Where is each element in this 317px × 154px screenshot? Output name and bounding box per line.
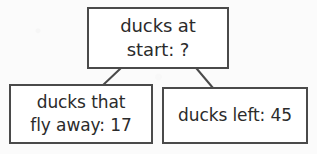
connector-total-to-left — [103, 69, 120, 85]
connector-total-to-right — [197, 69, 213, 88]
node-part-right-line-1: ducks left: 45 — [178, 104, 292, 127]
node-part-left-line-2: fly away: 17 — [30, 114, 131, 137]
node-total-line-2: start: ? — [127, 38, 189, 62]
node-part-ducks-that-fly-away: ducks that fly away: 17 — [9, 84, 153, 144]
node-total-line-1: ducks at — [120, 14, 196, 38]
node-part-left-line-1: ducks that — [37, 91, 126, 114]
node-total-ducks-at-start: ducks at start: ? — [87, 7, 229, 69]
diagram-canvas: ducks at start: ? ducks that fly away: 1… — [0, 0, 317, 154]
node-part-ducks-left: ducks left: 45 — [162, 87, 308, 144]
